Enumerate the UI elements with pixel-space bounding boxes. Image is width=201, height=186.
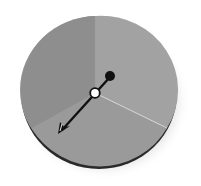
spinner-figure (0, 0, 201, 186)
spinner-svg (0, 0, 201, 186)
hub-pivot (90, 88, 100, 98)
pointer-knob (105, 71, 115, 81)
